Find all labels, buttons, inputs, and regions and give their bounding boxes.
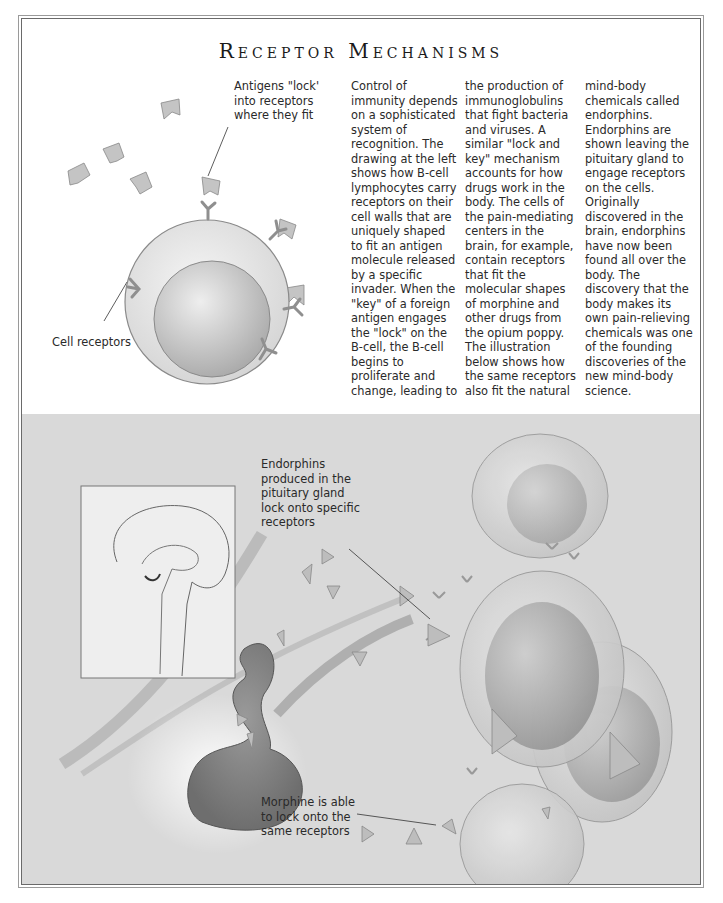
endorphin-drawing (22, 414, 700, 884)
page-frame: Receptor Mechanisms (21, 18, 701, 885)
text-column-3: mind-body chemicals called endorphins. E… (585, 79, 693, 398)
text-column-2: the production of immunoglobulins that f… (465, 79, 576, 398)
antigens-label: Antigens "lock' into receptors where the… (234, 79, 319, 123)
morphine-label: Morphine is able to lock onto the same r… (261, 795, 355, 839)
text-column-1: Control of immunity depends on a sophist… (351, 79, 458, 398)
cell-receptors-label: Cell receptors (52, 335, 131, 350)
endorphin-illustration: Endorphins produced in the pituitary gla… (22, 414, 700, 884)
endorphins-label: Endorphins produced in the pituitary gla… (261, 457, 360, 530)
